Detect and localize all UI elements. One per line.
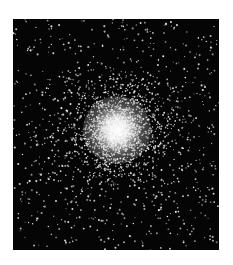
star-field (13, 19, 219, 250)
star-cluster-image (13, 19, 219, 250)
